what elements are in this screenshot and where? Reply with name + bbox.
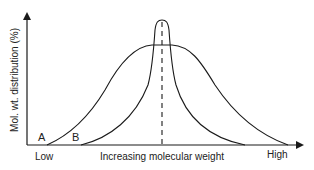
y-axis-label: Mol. wt. distribution (%) bbox=[9, 28, 20, 132]
mw-distribution-diagram: Mol. wt. distribution (%) A B Low Increa… bbox=[0, 0, 314, 170]
curve-b bbox=[81, 20, 245, 145]
curve-b-label: B bbox=[72, 131, 79, 143]
x-axis-label: Increasing molecular weight bbox=[100, 151, 224, 162]
curve-a bbox=[47, 45, 288, 145]
x-axis-high-label: High bbox=[267, 149, 288, 160]
x-axis-low-label: Low bbox=[35, 151, 54, 162]
curve-a-label: A bbox=[38, 131, 46, 143]
